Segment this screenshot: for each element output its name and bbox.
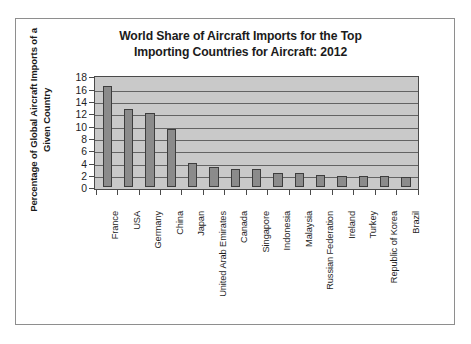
x-label-brazil: Brazil [411,211,421,234]
x-label-japan: Japan [196,211,206,236]
y-axis-title-line-1: Percentage of Global Aircraft Imports of… [28,5,41,235]
x-tick [310,190,311,195]
y-tick-label-2: 2 [67,171,87,182]
bar-slot [374,78,395,187]
x-label-usa: USA [132,211,142,230]
bar-slot [97,78,118,187]
y-axis-title: Percentage of Global Aircraft Imports of… [28,5,62,235]
bar-malaysia[interactable] [295,173,304,188]
y-axis-title-line-2: Given Country [41,5,54,235]
x-axis-category-labels: FranceUSAGermanyChinaJapanUnited Arab Em… [94,211,419,323]
bar-slot [182,78,203,187]
y-tick-label-18: 18 [67,72,87,83]
y-tick-label-8: 8 [67,134,87,145]
x-tick [332,190,333,195]
bar-slot [331,78,352,187]
x-label-ireland: Ireland [347,211,357,239]
bar-united-arab-emirates[interactable] [209,167,218,187]
x-tick [353,190,354,195]
bar-slot [267,78,288,187]
bar-france[interactable] [103,86,112,188]
bar-ireland[interactable] [337,176,346,188]
x-label-canada: Canada [239,211,249,243]
bar-singapore[interactable] [252,169,261,188]
x-tick [246,190,247,195]
x-label-united-arab-emirates: United Arab Emirates [218,211,228,297]
x-label-russian-federation: Russian Federation [325,211,335,290]
x-tick [396,190,397,195]
x-tick [160,190,161,195]
y-tick-12 [89,114,94,115]
x-label-singapore: Singapore [261,211,271,253]
y-tick-10 [89,127,94,128]
x-tick [267,190,268,195]
chart-figure-frame: World Share of Aircraft Imports for the … [15,18,455,325]
y-tick-label-16: 16 [67,84,87,95]
x-tick [96,190,97,195]
y-tick-18 [89,77,94,78]
bar-slot [139,78,160,187]
plot-area [94,76,419,190]
x-tick [224,190,225,195]
x-tick [139,190,140,195]
y-tick-label-6: 6 [67,146,87,157]
x-tick [181,190,182,195]
x-label-indonesia: Indonesia [282,211,292,250]
bar-slot [161,78,182,187]
bar-canada[interactable] [231,169,240,188]
y-tick-8 [89,139,94,140]
y-tick-2 [89,176,94,177]
x-label-republic-of-korea: Republic of Korea [389,211,399,283]
bar-japan[interactable] [188,163,197,187]
x-axis-ticks [94,190,419,195]
bar-slot [203,78,224,187]
bar-slot [246,78,267,187]
plot-wrap: 181614121086420 [94,76,419,208]
chart-title-line-1: World Share of Aircraft Imports for the … [68,28,413,44]
y-tick-4 [89,164,94,165]
x-label-germany: Germany [153,211,163,249]
bar-series [97,78,417,187]
bar-usa[interactable] [124,109,133,187]
bar-republic-of-korea[interactable] [380,176,389,188]
y-tick-14 [89,102,94,103]
x-tick [117,190,118,195]
x-tick [203,190,204,195]
bar-brazil[interactable] [401,177,410,187]
bar-slot [395,78,416,187]
chart-title: World Share of Aircraft Imports for the … [68,28,413,60]
x-tick [418,190,419,195]
y-tick-label-0: 0 [67,183,87,194]
y-tick-label-4: 4 [67,158,87,169]
y-tick-label-14: 14 [67,96,87,107]
x-tick [375,190,376,195]
bar-slot [118,78,139,187]
y-tick-16 [89,90,94,91]
bar-slot [225,78,246,187]
y-tick-6 [89,151,94,152]
bar-turkey[interactable] [359,176,368,188]
chart-title-line-2: Importing Countries for Aircraft: 2012 [68,44,413,60]
y-tick-label-10: 10 [67,121,87,132]
bar-china[interactable] [167,129,176,187]
bar-germany[interactable] [145,113,154,187]
bar-russian-federation[interactable] [316,175,325,187]
y-tick-label-12: 12 [67,109,87,120]
bar-slot [289,78,310,187]
x-label-turkey: Turkey [368,211,378,238]
x-tick [289,190,290,195]
bar-slot [310,78,331,187]
x-label-china: China [175,211,185,235]
bar-slot [353,78,374,187]
x-label-france: France [110,211,120,239]
x-label-malaysia: Malaysia [304,211,314,247]
bar-indonesia[interactable] [273,173,282,188]
